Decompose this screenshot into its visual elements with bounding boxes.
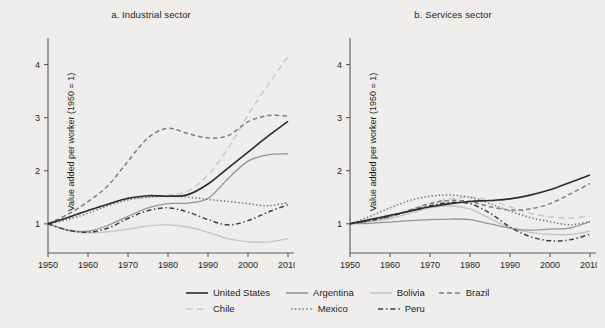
x-tick-label: 1990 xyxy=(198,260,218,270)
legend-swatch-mexico xyxy=(291,304,313,314)
y-tick-label: 3 xyxy=(337,113,342,123)
x-tick-label: 2010 xyxy=(278,260,295,270)
legend-swatch-chile xyxy=(186,304,208,314)
legend-item-peru[interactable]: Peru xyxy=(378,303,425,314)
panel-title-services: b. Services sector xyxy=(302,9,604,20)
legend-row-secondary: ChileMexicoPeru xyxy=(186,303,425,314)
series-line-chile xyxy=(48,57,288,224)
chart-figure: a. Industrial sector Value added per wor… xyxy=(0,0,605,328)
legend-label: Argentina xyxy=(313,287,354,298)
plot-area-industrial: 12341950196019701980199020002010 xyxy=(30,36,295,271)
legend-label: Peru xyxy=(405,303,425,314)
legend-label: Brazil xyxy=(466,287,490,298)
x-tick-label: 2000 xyxy=(238,260,258,270)
series-line-united-states xyxy=(48,121,288,223)
plot-svg-industrial: 12341950196019701980199020002010 xyxy=(30,36,295,271)
series-line-argentina xyxy=(48,154,288,232)
x-tick-label: 1960 xyxy=(380,260,400,270)
legend-item-united-states[interactable]: United States xyxy=(186,287,270,298)
y-tick-label: 3 xyxy=(35,113,40,123)
legend-label: United States xyxy=(213,287,270,298)
legend-item-chile[interactable]: Chile xyxy=(186,303,235,314)
legend-swatch-peru xyxy=(378,304,400,314)
x-tick-label: 1970 xyxy=(118,260,138,270)
x-tick-label: 1970 xyxy=(420,260,440,270)
x-tick-label: 2010 xyxy=(580,260,597,270)
plot-area-services: 12341950196019701980199020002010 xyxy=(332,36,597,271)
panels-container: a. Industrial sector Value added per wor… xyxy=(0,0,605,283)
y-tick-label: 1 xyxy=(337,219,342,229)
series-line-peru xyxy=(48,205,288,233)
legend-row-primary: United StatesArgentinaBoliviaBrazil xyxy=(186,287,489,298)
y-tick-label: 2 xyxy=(35,166,40,176)
panel-services: b. Services sector Value added per worke… xyxy=(302,0,604,283)
panel-title-industrial: a. Industrial sector xyxy=(0,9,302,20)
legend-item-mexico[interactable]: Mexico xyxy=(291,303,348,314)
legend-label: Chile xyxy=(213,303,235,314)
legend-swatch-brazil xyxy=(439,288,461,298)
x-tick-label: 2000 xyxy=(540,260,560,270)
legend-swatch-bolivia xyxy=(370,288,392,298)
y-tick-label: 4 xyxy=(35,60,40,70)
legend-item-argentina[interactable]: Argentina xyxy=(286,287,354,298)
series-line-bolivia xyxy=(350,206,590,235)
series-line-united-states xyxy=(350,175,590,224)
legend-swatch-argentina xyxy=(286,288,308,298)
series-line-mexico xyxy=(48,196,288,224)
legend-label: Mexico xyxy=(318,303,348,314)
x-tick-label: 1950 xyxy=(38,260,58,270)
x-tick-label: 1990 xyxy=(500,260,520,270)
panel-industrial: a. Industrial sector Value added per wor… xyxy=(0,0,302,283)
x-tick-label: 1950 xyxy=(340,260,360,270)
legend-item-bolivia[interactable]: Bolivia xyxy=(370,287,425,298)
series-line-argentina xyxy=(350,219,590,230)
legend-swatch-united-states xyxy=(186,288,208,298)
plot-svg-services: 12341950196019701980199020002010 xyxy=(332,36,597,271)
y-tick-label: 2 xyxy=(337,166,342,176)
legend-label: Bolivia xyxy=(397,287,425,298)
chart-legend: United StatesArgentinaBoliviaBrazil Chil… xyxy=(0,286,605,328)
x-tick-label: 1980 xyxy=(158,260,178,270)
series-line-mexico xyxy=(350,195,590,225)
legend-item-brazil[interactable]: Brazil xyxy=(439,287,490,298)
series-line-brazil xyxy=(48,115,288,224)
y-tick-label: 1 xyxy=(35,219,40,229)
x-tick-label: 1960 xyxy=(78,260,98,270)
x-tick-label: 1980 xyxy=(460,260,480,270)
y-tick-label: 4 xyxy=(337,60,342,70)
